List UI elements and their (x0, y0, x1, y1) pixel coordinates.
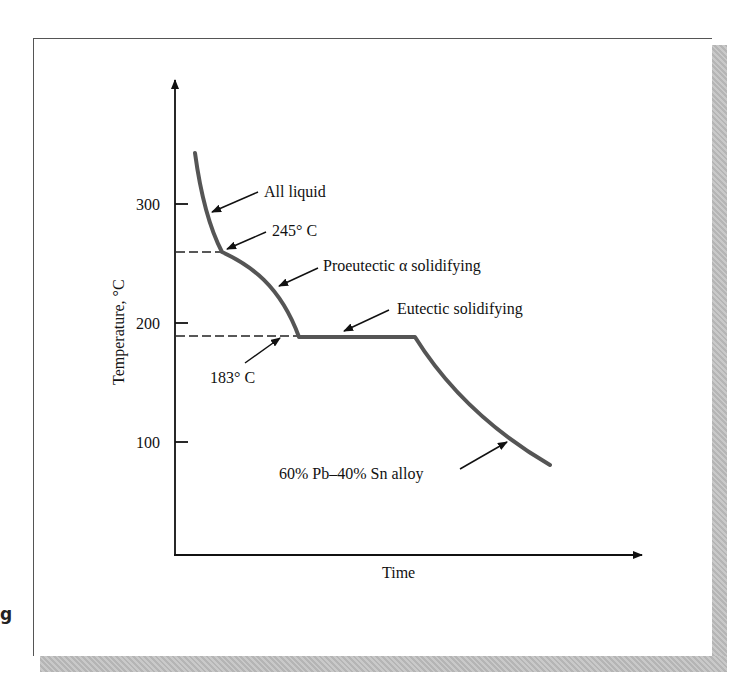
arrow-245 (227, 232, 266, 249)
x-axis-label: Time (382, 564, 415, 581)
label-all-liquid: All liquid (264, 183, 326, 201)
y-tick-label-100: 100 (136, 434, 160, 451)
y-axis-label: Temperature, °C (110, 279, 128, 385)
label-proeutectic: Proeutectic α solidifying (323, 257, 481, 275)
arrow-all-liquid (212, 192, 258, 212)
label-245c: 245° C (272, 222, 317, 239)
arrow-proeutectic (279, 268, 318, 286)
y-tick-label-200: 200 (136, 315, 160, 332)
label-alloy: 60% Pb–40% Sn alloy (279, 465, 423, 483)
label-183c: 183° C (210, 369, 255, 386)
y-tick-label-300: 300 (136, 196, 160, 213)
arrow-alloy (460, 442, 507, 469)
arrow-eutectic (344, 310, 389, 331)
cooling-curve-chart: 300 200 100 Temperature, °C Time All liq… (0, 0, 750, 693)
arrow-183 (245, 338, 280, 363)
label-eutectic: Eutectic solidifying (397, 300, 523, 318)
